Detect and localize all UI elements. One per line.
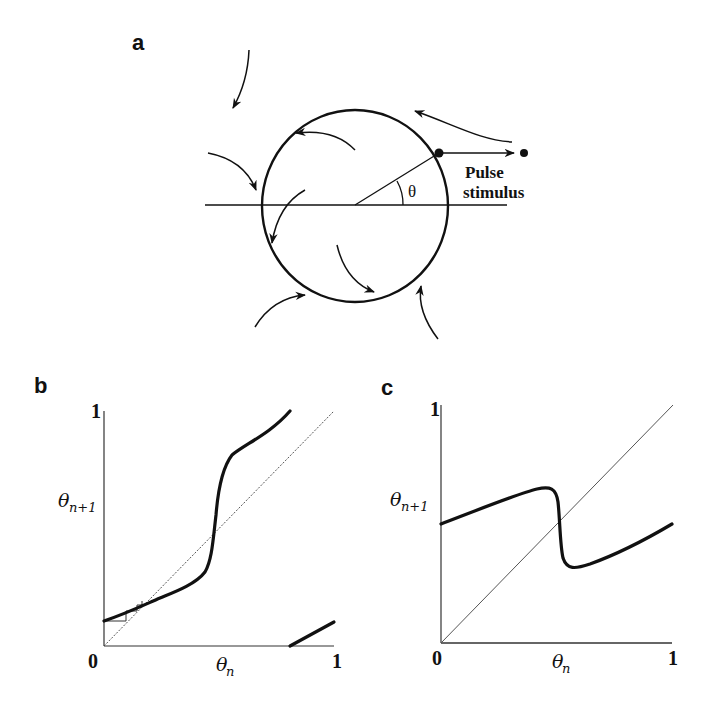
c-y-label-sub: n+1 [401, 499, 429, 514]
angle-arc [397, 181, 403, 205]
b-y-label-sub: n+1 [69, 500, 97, 515]
b-x-tick-1: 1 [332, 650, 342, 672]
panel-b-label: b [34, 373, 47, 398]
c-x-tick-1: 1 [668, 647, 678, 669]
panel-c: c 1 0 1 θ n+1 θ n [381, 375, 678, 676]
c-y-tick-1: 1 [430, 398, 440, 420]
panel-a: a θ Pulse stimulus [132, 30, 528, 339]
c-phase-curve [441, 488, 672, 568]
perturbed-point-dot [520, 149, 528, 157]
pulse-label: Pulse [465, 163, 504, 182]
c-origin-tick: 0 [432, 647, 442, 669]
limit-cycle-circle [262, 110, 448, 302]
b-y-tick-1: 1 [91, 400, 101, 422]
b-identity-line [104, 411, 334, 646]
flow-arrow-bottom-left [255, 295, 305, 327]
theta-label: θ [408, 182, 416, 201]
return-flow-arrow [415, 111, 512, 142]
b-phase-curve [104, 411, 290, 621]
flow-arrow-top [233, 50, 249, 108]
flow-arrow-inner-top [296, 132, 355, 150]
flow-arrow-bottom-right [420, 286, 438, 339]
c-identity-line [441, 405, 673, 643]
panel-a-label: a [132, 30, 145, 55]
flow-arrow-left [208, 153, 256, 190]
phase-point-dot [435, 149, 444, 158]
c-y-axis-label: θ n+1 [390, 488, 429, 514]
c-x-label-sub: n [562, 661, 570, 676]
b-x-label-sub: n [226, 664, 234, 679]
b-x-axis-label: θ n [216, 653, 234, 679]
phase-radius-line [355, 153, 439, 205]
b-origin-tick: 0 [88, 650, 98, 672]
b-phase-curve-wrapped [290, 622, 334, 646]
panel-c-label: c [381, 375, 393, 400]
panel-b: b 1 0 1 θ n+1 θ n [34, 373, 342, 679]
c-x-axis-label: θ n [552, 650, 570, 676]
flow-arrow-inner-left [272, 190, 305, 243]
b-y-axis-label: θ n+1 [58, 489, 97, 515]
stimulus-label: stimulus [463, 183, 525, 202]
figure-canvas: a θ Pulse stimulus b 1 0 1 θ [0, 0, 714, 704]
flow-arrow-inner-bottom [337, 245, 374, 292]
